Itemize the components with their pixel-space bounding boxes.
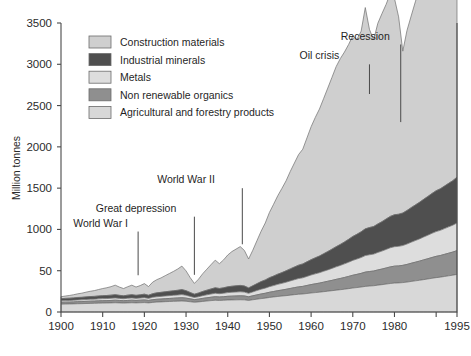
legend-swatch-metals (89, 71, 111, 83)
material-extraction-stacked-area-chart: 050100015002000250030003500 190019101920… (0, 0, 471, 356)
annotation-label-world-war-i: World War I (73, 217, 128, 229)
y-tick-label: 1000 (26, 223, 52, 235)
x-tick-label: 1970 (340, 320, 366, 332)
legend-label-industrial-minerals: Industrial minerals (120, 54, 205, 66)
y-tick-label: 3500 (26, 17, 52, 29)
y-tick-label: 2500 (26, 100, 52, 112)
x-tick-label: 1995 (444, 320, 470, 332)
y-tick-label: 1500 (26, 182, 52, 194)
legend-swatch-agricultural-and-forestry-products (89, 106, 111, 118)
annotation-label-world-war-ii: World War II (157, 173, 215, 185)
x-tick-label: 1950 (257, 320, 283, 332)
y-tick-label: 0 (46, 306, 52, 318)
x-tick-label: 1930 (173, 320, 199, 332)
annotation-label-oil-crisis: Oil crisis (300, 49, 340, 61)
y-tick-label: 2000 (26, 141, 52, 153)
y-axis-title: Million tonnes (10, 136, 22, 200)
x-tick-label: 1960 (298, 320, 324, 332)
annotation-label-great-depression: Great depression (96, 202, 177, 214)
legend-label-agricultural-and-forestry-products: Agricultural and forestry products (120, 106, 274, 118)
legend-label-non-renewable-organics: Non renewable organics (120, 89, 233, 101)
y-tick-label: 3000 (26, 58, 52, 70)
x-tick-label: 1910 (90, 320, 116, 332)
x-tick-label: 1920 (132, 320, 158, 332)
legend-label-metals: Metals (120, 71, 151, 83)
x-tick-label: 1900 (48, 320, 74, 332)
legend-swatch-non-renewable-organics (89, 89, 111, 101)
legend-swatch-construction-materials (89, 36, 111, 48)
y-tick-label: 50 (39, 265, 52, 277)
y-axis-title-text: Million tonnes (10, 136, 22, 200)
x-tick-label: 1980 (382, 320, 408, 332)
chart-figure: 050100015002000250030003500 190019101920… (0, 0, 471, 356)
legend-swatch-industrial-minerals (89, 54, 111, 66)
x-tick-label: 1940 (215, 320, 241, 332)
annotation-label-recession: Recession (341, 30, 390, 42)
legend-label-construction-materials: Construction materials (120, 36, 224, 48)
